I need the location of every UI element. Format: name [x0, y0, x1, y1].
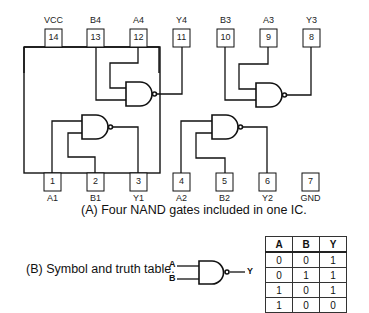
pin-number: 8 [303, 32, 320, 42]
pin-number: 12 [130, 32, 147, 42]
wire-y4 [155, 47, 182, 94]
wire-b3 [225, 47, 256, 100]
nand-gate-1 [82, 115, 108, 139]
nand-gate-3 [256, 83, 282, 107]
table-row: 0 1 1 [266, 268, 347, 283]
wire-y3 [285, 47, 311, 95]
pin-label: Y3 [299, 15, 324, 25]
pin-label: Y2 [255, 193, 280, 203]
pin-number: 6 [259, 176, 276, 186]
pin-label: Y1 [126, 193, 151, 203]
symbol-label-y: Y [247, 266, 253, 276]
pin-number: 2 [87, 176, 104, 186]
cell: 0 [293, 252, 320, 268]
symbol-label-b: B [169, 273, 176, 283]
nand-gate-4 [126, 82, 152, 106]
pin-label: B1 [83, 193, 108, 203]
cell: 1 [293, 268, 320, 283]
cell: 1 [320, 252, 347, 268]
pin-label: VCC [41, 15, 66, 25]
pin-number: 10 [217, 32, 234, 42]
pin-label: B3 [213, 15, 238, 25]
wire-y2 [241, 127, 267, 173]
table-row: 1 0 0 [266, 298, 347, 313]
wire-a1 [52, 121, 82, 173]
pin-label: GND [298, 193, 323, 203]
header-b: B [293, 237, 320, 253]
cell: 0 [266, 268, 293, 283]
pin-number: 13 [87, 32, 104, 42]
pin-number: 3 [130, 176, 147, 186]
cell: 0 [320, 298, 347, 313]
cell: 1 [320, 268, 347, 283]
symbol-nand-gate [199, 261, 224, 284]
cell: 0 [266, 252, 293, 268]
pin-label: B4 [83, 15, 108, 25]
cell: 0 [293, 298, 320, 313]
pin-number: 11 [173, 32, 190, 42]
pin-label: Y4 [169, 15, 194, 25]
caption-a: (A) Four NAND gates included in one IC. [81, 203, 307, 217]
caption-b: (B) Symbol and truth table. [26, 262, 175, 276]
wire-b4 [96, 47, 126, 100]
symbol-label-a: A [169, 259, 176, 269]
header-y: Y [320, 237, 347, 253]
pin-label: A3 [256, 15, 281, 25]
pin-label: A2 [169, 193, 194, 203]
pin-number: 4 [173, 176, 190, 186]
cell: 0 [293, 283, 320, 298]
pin-number: 1 [44, 176, 61, 186]
cell: 1 [266, 283, 293, 298]
pin-label: B2 [212, 193, 237, 203]
truth-table: A B Y 0 0 1 0 1 1 1 0 1 1 0 0 [265, 236, 347, 313]
cell: 1 [320, 283, 347, 298]
cell: 1 [266, 298, 293, 313]
ic-package-body [24, 47, 159, 73]
table-row: 0 0 1 [266, 252, 347, 268]
header-a: A [266, 237, 293, 253]
nand-gate-2 [212, 115, 238, 139]
ic-body-main [24, 47, 160, 173]
pin-number: 7 [302, 176, 319, 186]
pin-number: 9 [260, 32, 277, 42]
wire-y1 [112, 127, 138, 173]
table-row: 1 0 1 [266, 283, 347, 298]
pin-label: A4 [126, 15, 151, 25]
pin-number: 14 [45, 32, 62, 42]
truth-table-header: A B Y [266, 237, 347, 253]
pin-label: A1 [40, 193, 65, 203]
pin-number: 5 [216, 176, 233, 186]
